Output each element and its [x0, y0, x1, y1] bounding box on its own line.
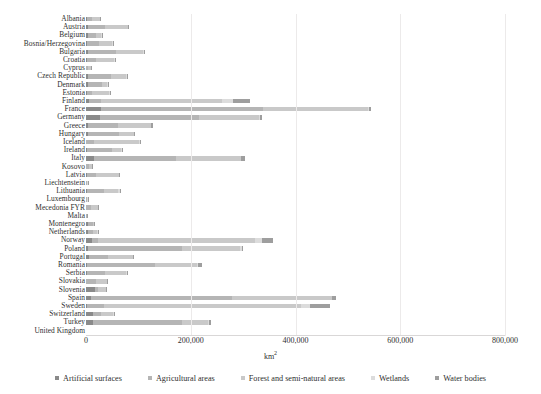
bar-segment: [176, 156, 241, 160]
bar-segment: [86, 287, 95, 291]
stacked-bar: [86, 132, 135, 136]
bar-segment: [87, 304, 104, 308]
stacked-bar: [86, 17, 101, 21]
bar-segment: [96, 173, 119, 177]
bar-segment: [116, 50, 143, 54]
stacked-bar: [86, 271, 128, 275]
bar-segment: [110, 91, 111, 95]
gridline: [191, 14, 192, 336]
x-axis-tick-labels: 0200,000400,000600,000800,000: [0, 336, 541, 350]
bar-segment: [105, 25, 129, 29]
legend-item[interactable]: Agricultural areas: [148, 374, 215, 383]
bar-segment: [86, 115, 100, 119]
legend-label: Water bodies: [443, 374, 486, 383]
stacked-bar: [86, 296, 336, 300]
bar-segment: [96, 279, 106, 283]
legend-swatch-icon: [371, 376, 375, 380]
legend-item[interactable]: Water bodies: [435, 374, 486, 383]
bar-segment: [88, 132, 118, 136]
bar-segment: [96, 58, 114, 62]
bar-segment: [133, 255, 134, 259]
gridline: [400, 14, 401, 336]
legend-swatch-icon: [435, 376, 439, 380]
bar-segment: [98, 238, 255, 242]
bar-segment: [120, 189, 121, 193]
bar-segment: [108, 255, 133, 259]
legend-label: Artificial surfaces: [63, 374, 122, 383]
x-tick-label: 200,000: [178, 336, 204, 345]
x-axis-title: km2: [0, 350, 541, 361]
legend-item[interactable]: Artificial surfaces: [55, 374, 122, 383]
x-axis-title-superscript: 2: [274, 350, 277, 356]
bar-segment: [182, 320, 208, 324]
stacked-bar: [86, 66, 92, 70]
bar-segment: [88, 74, 111, 78]
bar-segment: [233, 99, 250, 103]
bar-segment: [86, 279, 96, 283]
x-tick-label: 800,000: [492, 336, 518, 345]
stacked-bar: [86, 107, 371, 111]
bar-segment: [87, 263, 155, 267]
land-cover-stacked-bar-chart: AlbaniaAustriaBelgiumBosnia/HerzegovinaB…: [0, 0, 541, 394]
bar-segment: [101, 99, 221, 103]
legend-swatch-icon: [148, 376, 152, 380]
bar-segment: [87, 148, 112, 152]
bar-segment: [92, 91, 109, 95]
stacked-bar: [86, 173, 120, 177]
bar-segment: [101, 107, 263, 111]
bar-segment: [140, 140, 141, 144]
legend-item[interactable]: Wetlands: [371, 374, 409, 383]
stacked-bar: [86, 222, 94, 226]
bar-segment: [112, 148, 121, 152]
bar-segment: [263, 107, 368, 111]
x-tick-label: 400,000: [283, 336, 309, 345]
bar-segment: [86, 107, 101, 111]
stacked-bar: [86, 320, 211, 324]
stacked-bar: [86, 312, 114, 316]
stacked-bar: [86, 255, 134, 259]
stacked-bar: [86, 33, 102, 37]
bar-segment: [198, 263, 203, 267]
stacked-bar: [86, 279, 108, 283]
category-label: United Kingdom: [0, 327, 85, 335]
chart-legend: Artificial surfacesAgricultural areasFor…: [0, 370, 541, 386]
bar-segment: [101, 312, 113, 316]
bar-segment: [241, 156, 245, 160]
stacked-bar: [86, 99, 250, 103]
bar-segment: [91, 205, 98, 209]
bar-segment: [310, 304, 330, 308]
stacked-bar: [86, 263, 202, 267]
bar-segment: [100, 17, 101, 21]
stacked-bar: [86, 246, 243, 250]
legend-item[interactable]: Forest and semi-natural areas: [241, 374, 345, 383]
bar-segment: [119, 173, 120, 177]
bar-segment: [127, 271, 128, 275]
bar-segment: [232, 296, 332, 300]
bar-segment: [369, 107, 371, 111]
bar-segment: [92, 17, 100, 21]
legend-swatch-icon: [241, 376, 245, 380]
bar-segment: [98, 287, 106, 291]
bar-segment: [88, 50, 116, 54]
stacked-bar: [86, 25, 129, 29]
stacked-bar: [86, 238, 273, 242]
bar-segment: [118, 123, 151, 127]
bar-segment: [260, 115, 262, 119]
legend-label: Forest and semi-natural areas: [249, 374, 345, 383]
stacked-bar: [86, 148, 123, 152]
stacked-bar: [86, 197, 88, 201]
stacked-bar: [86, 115, 262, 119]
gridline: [505, 14, 506, 336]
stacked-bar: [86, 189, 121, 193]
stacked-bar: [86, 214, 88, 218]
bar-segment: [93, 320, 182, 324]
bar-segment: [86, 320, 93, 324]
bar-segment: [88, 82, 102, 86]
stacked-bar: [86, 164, 92, 168]
bar-segment: [88, 33, 96, 37]
x-tick-label: 0: [84, 336, 88, 345]
bar-segment: [87, 58, 96, 62]
bar-segment: [93, 312, 101, 316]
bar-segment: [104, 304, 300, 308]
bar-segment: [262, 238, 272, 242]
